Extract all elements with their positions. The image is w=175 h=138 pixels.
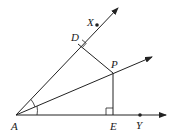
- label-p: P: [111, 59, 118, 70]
- point-x-dot: [95, 23, 99, 27]
- geometry-diagram: X D P A E Y: [0, 0, 175, 138]
- label-d: D: [71, 32, 79, 43]
- label-y: Y: [136, 120, 142, 131]
- right-angle-mark-e: [106, 108, 113, 115]
- angle-arc-upper: [31, 100, 35, 108]
- label-a: A: [11, 121, 18, 132]
- label-x: X: [87, 17, 94, 28]
- label-e: E: [110, 121, 117, 132]
- ray-ax: [16, 8, 118, 115]
- segment-pd: [78, 44, 113, 73]
- ray-ap-bisector: [16, 57, 152, 115]
- point-y-dot: [138, 113, 142, 117]
